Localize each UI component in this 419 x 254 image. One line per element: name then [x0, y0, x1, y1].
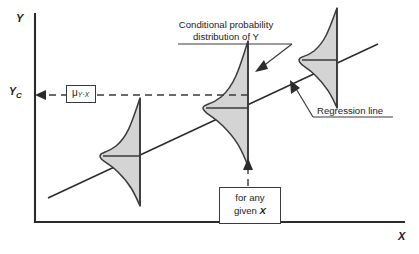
bell-curve-middle [203, 41, 248, 166]
given-line-2-text: given [234, 205, 260, 216]
y-axis-label: Y [16, 12, 23, 26]
regression-leader-line [295, 87, 313, 117]
bell-curve-right [299, 8, 337, 108]
given-line-2: given X [222, 205, 278, 218]
x-axis-label: X [398, 230, 405, 244]
mu-arrowhead [35, 90, 46, 100]
y-c-base: Y [9, 85, 16, 97]
distribution-curve-right [299, 8, 337, 108]
given-x-arrowhead [243, 158, 253, 170]
conditional-arrowhead [255, 60, 268, 72]
regression-distribution-figure: Y X YC μY·X Conditional probability dist… [0, 0, 419, 254]
given-x-label-box: for any given X [219, 187, 281, 224]
distribution-curve-middle [203, 41, 248, 166]
regression-line-annotation: Regression line [317, 105, 383, 117]
conditional-line-2: distribution of Y [163, 31, 289, 43]
given-line-1: for any [222, 192, 278, 205]
y-c-subscript: C [16, 91, 22, 100]
conditional-line-1: Conditional probability [163, 19, 289, 31]
conditional-leader-line [262, 44, 292, 67]
distribution-curve-left [100, 98, 140, 206]
y-c-tick-label: YC [9, 85, 22, 101]
conditional-distribution-annotation: Conditional probability distribution of … [163, 19, 289, 43]
mu-subscript: Y·X [78, 91, 90, 98]
bell-curve-left [100, 98, 140, 206]
mu-label-box: μY·X [66, 85, 96, 103]
given-variable: X [260, 205, 266, 216]
